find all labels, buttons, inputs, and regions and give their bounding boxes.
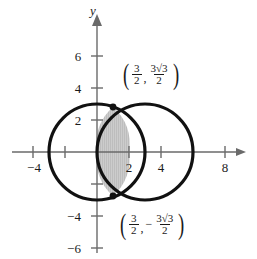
x-tick-label-2: 2 [120,161,138,174]
x-axis-arrow [236,148,246,156]
y-tick-label-6: 6 [70,50,86,63]
x-tick-label--4: −4 [23,161,45,174]
upper-point-annotation: ( 3 2 , 3√3 2 ) [121,62,181,86]
y-tick-label-4: 4 [70,82,86,95]
lower-y-fraction: 3√3 2 [154,213,175,236]
y-tick-label--4: −4 [62,210,86,223]
right-paren: ) [178,212,184,236]
lower-point-annotation: ( 3 2 , − 3√3 2 ) [118,212,186,236]
upper-x-fraction: 3 2 [132,63,142,86]
lower-x-fraction: 3 2 [129,213,139,236]
y-tick-label--6: −6 [62,242,86,255]
x-tick-label-8: 8 [216,161,234,174]
left-paren: ( [123,62,129,86]
upper-y-fraction: 3√3 2 [149,63,170,86]
left-paren: ( [120,212,126,236]
y-tick-label-2: 2 [70,114,86,127]
minus-sign: − [145,217,154,232]
right-paren: ) [172,62,178,86]
comma: , [143,71,148,86]
x-tick-label-4: 4 [152,161,170,174]
y-axis-label: y [90,4,96,17]
point-upper-intersection [110,104,117,111]
point-lower-intersection [110,193,117,200]
